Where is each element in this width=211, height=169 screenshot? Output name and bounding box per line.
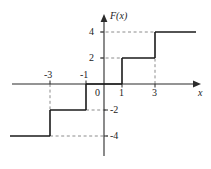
y-axis-arrowhead	[101, 14, 108, 22]
y-tick-label-2: 2	[89, 53, 94, 63]
y-tick-label-4: 4	[89, 27, 94, 37]
step-function-figure: F(x) x 4 2 -2 -4 -3 -1 1 3 0	[0, 0, 211, 169]
origin-label: 0	[95, 88, 100, 98]
x-tick-label-neg1: -1	[80, 70, 88, 80]
x-tick-label-neg3: -3	[44, 70, 52, 80]
y-axis-label: F(x)	[110, 11, 127, 21]
x-tick-label-1: 1	[119, 88, 124, 98]
x-tick-label-3: 3	[152, 88, 157, 98]
graph-canvas	[0, 0, 211, 169]
y-tick-label-neg4: -4	[110, 131, 118, 141]
y-tick-label-neg2: -2	[110, 105, 118, 115]
x-axis-label: x	[198, 88, 202, 98]
